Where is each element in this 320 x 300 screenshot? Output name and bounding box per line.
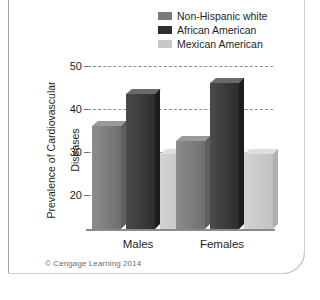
legend-label: Mexican American — [177, 38, 263, 50]
copyright-notice: © Cengage Learning 2014 — [45, 259, 141, 268]
y-tick-label-30: 30 — [70, 146, 82, 158]
legend-item-african-american: African American — [158, 23, 267, 36]
legend-item-mexican-american: Mexican American — [158, 37, 267, 50]
y-tick-label-20: 20 — [70, 189, 82, 201]
legend-item-non-hispanic-white: Non-Hispanic white — [158, 9, 267, 22]
tickmark-30 — [84, 152, 88, 153]
bar-females-non-hispanic-white — [176, 141, 205, 229]
legend-swatch-icon — [158, 40, 172, 48]
bar-front-face — [244, 154, 273, 229]
bar-females-mexican-american — [244, 154, 273, 229]
bar-front-face — [176, 141, 205, 229]
legend-swatch-icon — [158, 12, 172, 20]
legend-label: African American — [177, 24, 256, 36]
plot-area: 50 40 30 20 — [88, 66, 273, 229]
bar-side-face — [273, 149, 278, 229]
bar-front-face — [210, 83, 239, 229]
y-tick-label-40: 40 — [70, 103, 82, 115]
legend-swatch-icon — [158, 26, 172, 34]
bar-males-african-american — [126, 94, 155, 229]
tickmark-40 — [84, 109, 88, 110]
tickmark-50 — [84, 66, 88, 67]
bar-front-face — [92, 126, 121, 229]
chart-legend: Non-Hispanic white African American Mexi… — [158, 9, 267, 50]
x-category-label-females: Females — [172, 238, 272, 250]
bar-front-face — [126, 94, 155, 229]
legend-label: Non-Hispanic white — [177, 10, 267, 22]
gridline-50 — [88, 66, 273, 67]
x-axis-line — [86, 229, 275, 231]
bar-females-african-american — [210, 83, 239, 229]
bar-males-non-hispanic-white — [92, 126, 121, 229]
tickmark-20 — [84, 195, 88, 196]
y-tick-label-50: 50 — [70, 60, 82, 72]
gridline-40 — [88, 109, 273, 110]
